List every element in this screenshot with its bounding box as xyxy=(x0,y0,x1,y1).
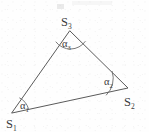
vertex-label-s2-base: S xyxy=(124,95,131,109)
vertex-label-s1: S1 xyxy=(6,117,17,132)
vertex-label-s3: S3 xyxy=(61,15,72,31)
vertex-label-s3-subscript: 3 xyxy=(68,22,72,31)
angle-label-alpha3-subscript: 3 xyxy=(68,44,72,51)
triangle-figure: S1 S2 S3 α1 α2 α3 xyxy=(0,0,149,132)
vertex-label-s2: S2 xyxy=(124,95,135,111)
triangle-diagram-canvas: S1 S2 S3 α1 α2 α3 xyxy=(0,0,149,132)
angle-label-alpha2: α2 xyxy=(104,76,114,89)
angle-label-alpha1-subscript: 1 xyxy=(26,106,29,113)
vertex-label-s1-subscript: 1 xyxy=(13,124,17,132)
vertex-label-s2-subscript: 2 xyxy=(131,102,135,111)
vertex-label-s3-base: S xyxy=(61,15,68,29)
angle-label-alpha1: α1 xyxy=(20,100,29,113)
angle-label-alpha3: α3 xyxy=(62,38,72,51)
angle-label-alpha2-subscript: 2 xyxy=(110,82,114,89)
vertex-label-s1-base: S xyxy=(6,117,13,131)
